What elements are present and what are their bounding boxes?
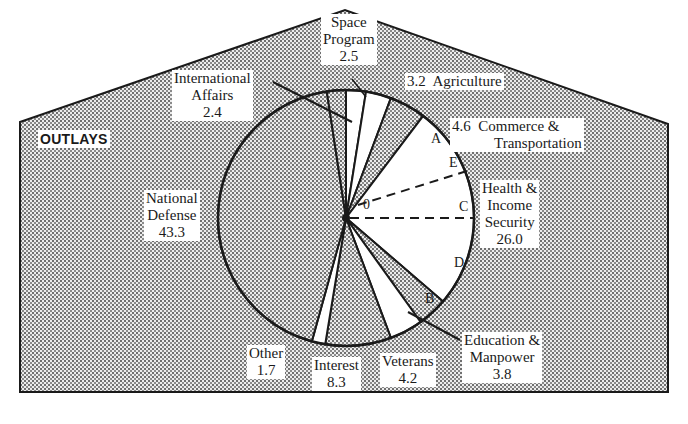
label-other-line1: Other <box>249 345 283 362</box>
label-veterans-value: 4.2 <box>382 370 434 387</box>
point-o: 0 <box>362 198 371 212</box>
label-other: Other 1.7 <box>247 345 285 379</box>
point-c: C <box>458 200 469 214</box>
label-education-line2: Manpower <box>464 349 540 366</box>
label-commerce-line2: Transportation <box>452 135 582 152</box>
label-agriculture: 3.2 Agriculture <box>405 73 504 90</box>
point-b: B <box>424 292 435 306</box>
point-d: D <box>453 256 465 270</box>
label-intl-line2: Affairs <box>174 87 251 104</box>
label-space-line1: Space <box>323 14 375 31</box>
label-education-manpower: Education & Manpower 3.8 <box>462 332 542 383</box>
label-intl-value: 2.4 <box>174 104 251 121</box>
label-interest-value: 8.3 <box>314 374 359 391</box>
label-commerce-line1: 4.6 Commerce & <box>452 118 582 135</box>
label-education-line1: Education & <box>464 332 540 349</box>
label-defense-line1: National <box>146 190 198 207</box>
label-interest: Interest 8.3 <box>312 357 361 391</box>
label-education-value: 3.8 <box>464 366 540 383</box>
label-health-income-security: Health & Income Security 26.0 <box>480 180 539 248</box>
center-point <box>342 214 350 222</box>
label-health-line3: Security <box>482 214 537 231</box>
label-intl-line1: International <box>174 70 251 87</box>
label-health-value: 26.0 <box>482 231 537 248</box>
label-health-line2: Income <box>482 197 537 214</box>
label-space-program: Space Program 2.5 <box>321 14 377 65</box>
label-national-defense: National Defense 43.3 <box>144 190 200 241</box>
point-e: E <box>448 156 459 170</box>
label-interest-line1: Interest <box>314 357 359 374</box>
label-defense-value: 43.3 <box>146 224 198 241</box>
label-defense-line2: Defense <box>146 207 198 224</box>
point-a: A <box>430 132 442 146</box>
label-veterans-line1: Veterans <box>382 353 434 370</box>
label-international-affairs: International Affairs 2.4 <box>172 70 253 121</box>
label-space-line2: Program <box>323 31 375 48</box>
label-space-value: 2.5 <box>323 48 375 65</box>
chart-title: OUTLAYS <box>38 130 110 148</box>
label-commerce-transportation: 4.6 Commerce & Transportation <box>450 118 584 152</box>
label-veterans: Veterans 4.2 <box>380 353 436 387</box>
label-other-value: 1.7 <box>249 362 283 379</box>
label-agri-text: 3.2 Agriculture <box>407 73 502 90</box>
label-health-line1: Health & <box>482 180 537 197</box>
